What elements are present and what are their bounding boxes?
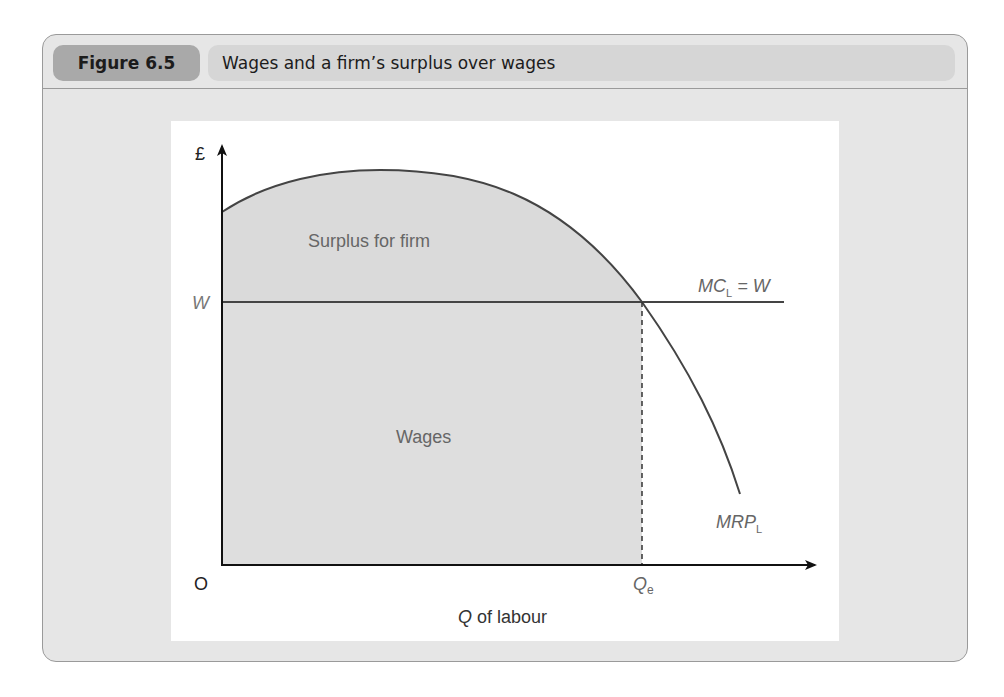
chart: £ O W Surplus for firm Wages MCL = W MRP… [0, 0, 1004, 697]
surplus-region [222, 170, 642, 302]
x-axis-label: Q of labour [458, 607, 547, 627]
qe-label: Qe [633, 574, 654, 597]
mrp-label: MRPL [716, 512, 762, 535]
origin-label: O [194, 574, 208, 594]
mc-label: MCL = W [698, 276, 772, 299]
wages-label: Wages [396, 427, 451, 447]
surplus-label: Surplus for firm [308, 231, 430, 251]
w-tick-label: W [192, 293, 211, 313]
y-axis-label: £ [195, 144, 205, 164]
